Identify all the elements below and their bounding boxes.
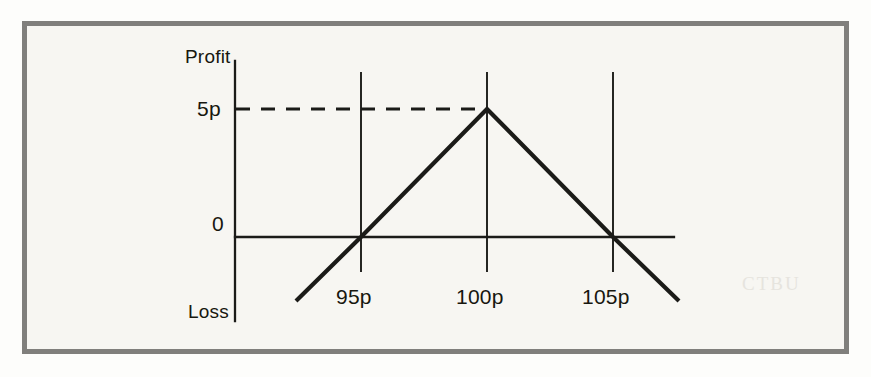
y-tick-label-zero: 0 [212,213,224,234]
chart-border-frame [22,21,849,354]
x-tick-label-100p: 100p [456,286,504,307]
x-tick-label-105p: 105p [582,286,630,307]
y-axis-bottom-label: Loss [188,302,229,321]
figure-root: Profit Loss 5p 0 95p 100p 105p CTBU [0,0,871,377]
scan-bleed-artifact: CTBU [742,273,838,299]
x-tick-label-95p: 95p [336,286,372,307]
y-axis-top-label: Profit [185,47,231,66]
y-tick-label-5p: 5p [197,98,221,119]
